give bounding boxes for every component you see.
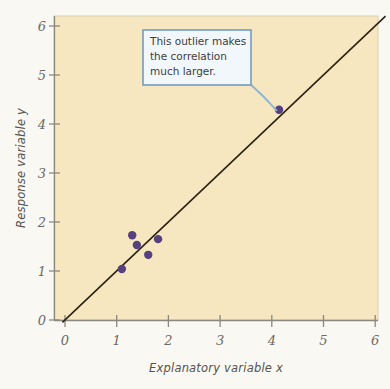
x-tick-label: 3	[216, 333, 224, 348]
data-point	[128, 231, 136, 239]
x-tick-label: 4	[267, 333, 276, 348]
callout-line-3: much larger.	[150, 65, 216, 77]
x-axis-title: Explanatory variable x	[149, 361, 283, 375]
x-tick-label: 6	[371, 333, 379, 348]
y-tick-label: 1	[38, 264, 46, 279]
y-axis-title: Response variable y	[14, 108, 28, 228]
x-tick-label: 0	[61, 333, 69, 348]
data-point	[118, 265, 126, 273]
callout-line-2: the correlation	[150, 50, 227, 62]
data-point	[144, 251, 152, 259]
x-tick-label: 2	[163, 333, 172, 348]
callout-line-1: This outlier makes	[149, 35, 246, 47]
y-tick-label: 3	[38, 166, 46, 181]
scatter-plot-figure: 0123456 0123456 This outlier makes the c…	[0, 0, 390, 389]
x-tick-label: 5	[319, 333, 327, 348]
data-point	[133, 241, 141, 249]
y-tick-label: 6	[38, 19, 46, 34]
y-tick-label: 5	[38, 68, 46, 83]
x-tick-label: 1	[113, 333, 121, 348]
y-tick-label: 4	[37, 117, 46, 132]
data-point	[154, 235, 162, 243]
y-tick-label: 0	[38, 313, 46, 328]
y-tick-label: 2	[37, 215, 46, 230]
plot-svg: 0123456 0123456 This outlier makes the c…	[0, 0, 390, 389]
